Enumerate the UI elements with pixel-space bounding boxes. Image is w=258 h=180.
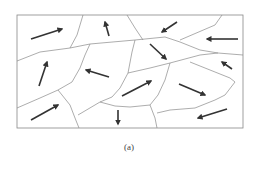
magnetic-domains-diagram xyxy=(0,0,258,180)
figure-caption: (a) xyxy=(0,142,258,152)
